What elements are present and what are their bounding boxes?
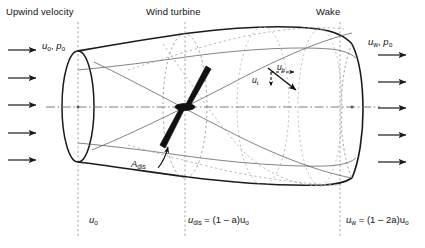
guide-curve-cross [163, 44, 322, 186]
station-upwind-sub: o [94, 219, 98, 226]
label-wake-conditions: uw, po [368, 36, 392, 47]
station-label-disc: udis = (1 – a)uo [188, 214, 249, 225]
streamline-upper-1 [78, 48, 356, 70]
centerline [46, 106, 380, 109]
header-wind-turbine: Wind turbine [146, 6, 201, 17]
section-ellipse-mid [237, 27, 289, 185]
outlet-disc [341, 44, 363, 178]
wind-turbine-streamtube-diagram: Upwind velocity Wind turbine Wake uo, po… [0, 0, 425, 248]
streamline-diag-b [92, 33, 352, 150]
station-disc-expr-sub: o [245, 219, 249, 226]
outflow-arrows [378, 55, 406, 162]
station-disc-sub: dis [193, 219, 201, 226]
turbine-rotor [160, 66, 211, 148]
label-upstream-conditions: uo, po [42, 40, 65, 51]
label-a-dis: Adis [131, 158, 146, 169]
station-label-wake: uw = (1 – 2a)uo [346, 214, 409, 225]
station-wake-expr-sub: o [405, 219, 409, 226]
diagram-canvas [0, 0, 425, 248]
outlet-disc-front [352, 44, 363, 178]
upstream-p-symbol: p [56, 40, 61, 51]
rotor-hub [175, 104, 195, 111]
wake-u-sub: w [373, 41, 378, 48]
u-h-sub: h [282, 67, 285, 73]
guide-curve-upper [128, 28, 344, 70]
centerline-node-inlet [77, 106, 80, 109]
wake-p-symbol: p [383, 36, 388, 47]
intermediate-sections [237, 27, 342, 185]
centerline-node-outlet [351, 106, 354, 109]
outlet-disc-back [341, 44, 352, 178]
a-dis-leader [158, 147, 168, 168]
header-upwind-velocity: Upwind velocity [6, 6, 74, 17]
upstream-u-sub: o [47, 45, 51, 52]
upstream-p-sub: o [62, 45, 66, 52]
interior-streamlines [78, 33, 356, 178]
header-wake: Wake [316, 6, 340, 17]
label-u-t: ut [252, 75, 258, 85]
streamtube-bottom-edge [78, 162, 352, 185]
station-wake-expr: = (1 – 2a)u [356, 214, 405, 225]
streamtube-envelope [78, 27, 352, 185]
station-label-upwind: uo [89, 214, 98, 225]
inflow-arrows [8, 50, 36, 160]
streamtube-top-edge [78, 27, 352, 51]
label-u-h: uh [277, 62, 285, 72]
wake-p-sub: o [389, 41, 393, 48]
station-wake-sub: w [351, 219, 356, 226]
streamline-lower-1 [78, 143, 356, 166]
a-dis-leader-line [158, 147, 168, 168]
station-disc-expr: = (1 – a)u [202, 214, 246, 225]
a-dis-sub: dis [137, 163, 145, 170]
